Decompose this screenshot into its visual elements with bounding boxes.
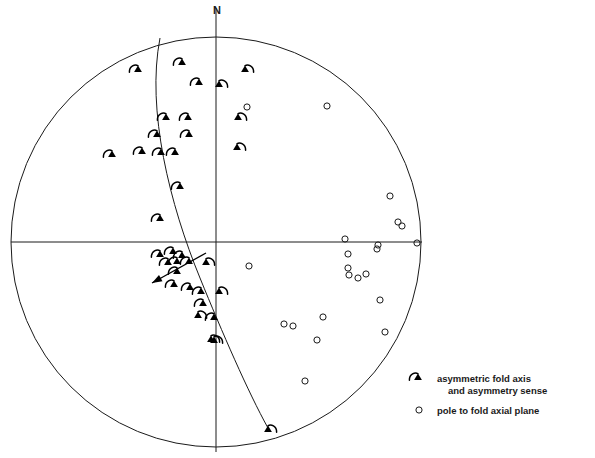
data-point-pole	[375, 242, 381, 248]
data-point-pole	[346, 272, 352, 278]
data-point-fold-axis	[192, 287, 205, 294]
data-point-fold-axis	[166, 148, 179, 155]
data-point-fold-axis	[103, 150, 116, 157]
data-point-fold-axis	[194, 299, 207, 306]
data-point-pole	[324, 103, 330, 109]
stereonet-canvas: Nasymmetric fold axisand asymmetry sense…	[0, 0, 595, 458]
data-point-fold-axis	[171, 182, 184, 189]
data-point-pole	[246, 263, 252, 269]
data-point-pole	[244, 104, 250, 110]
data-point-fold-axis	[152, 148, 165, 155]
data-point-fold-axis	[190, 78, 203, 85]
data-point-fold-axis	[151, 214, 164, 221]
data-point-pole	[302, 378, 308, 384]
data-point-fold-axis	[133, 147, 146, 154]
data-point-pole	[374, 246, 380, 252]
data-point-pole	[414, 240, 420, 246]
data-point-fold-axis	[233, 143, 246, 150]
legend-symbol-pole	[416, 407, 422, 413]
legend-label-1-line1: asymmetric fold axis	[437, 373, 531, 384]
data-point-pole	[281, 321, 287, 327]
data-point-fold-axis	[181, 283, 194, 290]
legend-label-2-line1: pole to fold axial plane	[437, 405, 539, 416]
data-point-fold-axis	[165, 280, 178, 287]
data-point-pole	[355, 275, 361, 281]
legend-label-1-line2: and asymmetry sense	[448, 385, 547, 396]
data-point-fold-axis	[151, 250, 164, 257]
data-point-fold-axis	[264, 425, 277, 432]
data-point-pole	[382, 329, 388, 335]
data-point-pole	[320, 314, 326, 320]
data-point-pole	[387, 193, 393, 199]
stereonet-figure: Nasymmetric fold axisand asymmetry sense…	[0, 0, 595, 458]
data-point-fold-axis	[215, 80, 228, 87]
arrow-head	[152, 275, 162, 283]
north-label: N	[213, 4, 221, 16]
data-point-pole	[345, 265, 351, 271]
data-point-pole	[363, 271, 369, 277]
data-point-pole	[290, 323, 296, 329]
data-point-fold-axis	[173, 58, 186, 65]
data-point-fold-axis	[202, 258, 215, 265]
data-point-fold-axis	[241, 65, 254, 72]
data-point-fold-axis	[157, 113, 170, 120]
data-point-pole	[345, 251, 351, 257]
data-point-fold-axis	[234, 113, 247, 120]
series-asymmetric-fold-axis	[103, 58, 276, 432]
girdle-great-circle	[156, 38, 268, 428]
data-point-pole	[395, 219, 401, 225]
data-point-pole	[314, 337, 320, 343]
data-point-fold-axis	[180, 130, 193, 137]
data-point-pole	[399, 223, 405, 229]
data-point-fold-axis	[215, 287, 228, 294]
figure-legend: asymmetric fold axisand asymmetry sensep…	[409, 373, 547, 416]
legend-symbol-fold-axis	[409, 373, 422, 380]
data-point-fold-axis	[194, 311, 207, 318]
data-point-fold-axis	[129, 65, 142, 72]
data-point-fold-axis	[179, 113, 192, 120]
series-pole-to-fold-axial-plane	[244, 103, 420, 384]
data-point-pole	[377, 297, 383, 303]
data-point-pole	[342, 236, 348, 242]
